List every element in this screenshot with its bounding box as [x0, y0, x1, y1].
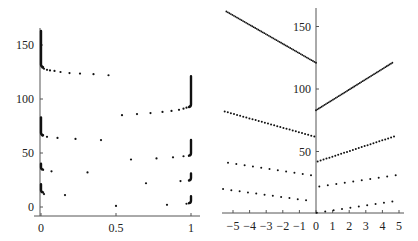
data-point	[361, 146, 363, 148]
data-point	[227, 111, 229, 113]
data-point	[252, 118, 254, 120]
data-point	[185, 203, 187, 205]
data-point	[239, 190, 241, 192]
data-point	[341, 208, 343, 210]
x-tick-label: 5	[396, 219, 402, 233]
vertical-branch	[189, 76, 191, 107]
x-tick-label: 2	[346, 219, 352, 233]
data-point	[283, 44, 285, 46]
data-point	[352, 149, 354, 151]
data-point	[367, 144, 369, 146]
x-tick-label: −4	[243, 219, 256, 233]
data-point	[242, 116, 244, 118]
data-point	[295, 51, 297, 53]
data-point	[100, 139, 102, 141]
data-point	[310, 174, 312, 176]
data-point	[79, 73, 81, 75]
y-tick-label: 150	[293, 20, 311, 34]
y-tick-label: 50	[299, 145, 311, 159]
data-point	[291, 48, 293, 50]
data-point	[107, 74, 109, 76]
y-tick-label: 100	[16, 92, 34, 106]
data-point	[370, 143, 372, 145]
data-point	[178, 109, 180, 111]
x-tick-label: 1	[330, 219, 336, 233]
data-point	[297, 51, 299, 53]
data-point	[53, 70, 55, 72]
data-point	[293, 172, 295, 174]
data-point	[145, 182, 147, 184]
vertical-branch	[41, 117, 43, 135]
x-tick-label: −2	[276, 219, 289, 233]
data-point	[232, 14, 234, 16]
series-branch-1	[41, 31, 191, 116]
data-point	[262, 31, 264, 33]
data-point	[378, 140, 380, 142]
data-point	[361, 179, 363, 181]
data-point	[236, 114, 238, 116]
y-tick-label: 150	[16, 38, 34, 52]
data-point	[115, 205, 117, 207]
data-point	[50, 170, 52, 172]
data-point	[248, 24, 250, 26]
data-point	[242, 20, 244, 22]
x-tick-label: 0	[38, 221, 44, 235]
data-point	[86, 171, 88, 173]
data-point	[316, 212, 318, 214]
data-point	[227, 162, 229, 164]
data-point	[270, 36, 272, 38]
series-line-3-left	[227, 162, 312, 177]
vertical-branch	[189, 196, 191, 203]
data-point	[333, 209, 335, 211]
data-point	[254, 27, 256, 29]
data-point	[378, 177, 380, 179]
data-point	[155, 157, 157, 159]
data-point	[325, 158, 327, 160]
figure: 05010015000.51 50100150−5−4−3−2−1012345	[0, 0, 418, 241]
data-point	[277, 40, 279, 42]
data-point	[277, 169, 279, 171]
data-point	[268, 35, 270, 37]
data-point	[256, 28, 258, 30]
data-point	[245, 117, 247, 119]
data-point	[304, 133, 306, 135]
data-point	[384, 138, 386, 140]
data-point	[170, 110, 172, 112]
data-point	[185, 107, 187, 109]
data-point	[294, 50, 296, 52]
series-line-3-right	[318, 174, 396, 187]
data-point	[381, 139, 383, 141]
data-point	[295, 130, 297, 132]
data-point	[188, 105, 190, 107]
data-point	[263, 32, 265, 34]
data-point	[136, 113, 138, 115]
vertical-branch	[41, 31, 43, 67]
data-point	[244, 164, 246, 166]
data-point	[349, 150, 351, 152]
data-point	[274, 38, 276, 40]
data-point	[272, 195, 274, 197]
data-point	[43, 193, 45, 195]
data-point	[172, 156, 174, 158]
data-point	[273, 38, 275, 40]
data-point	[358, 206, 360, 208]
data-point	[313, 136, 315, 138]
data-point	[301, 132, 303, 134]
data-point	[344, 182, 346, 184]
x-tick-label: 3	[363, 219, 369, 233]
series-line-1-right	[315, 62, 393, 111]
data-point	[391, 62, 393, 64]
data-point	[233, 113, 235, 115]
data-point	[324, 211, 326, 213]
data-point	[236, 17, 238, 19]
data-point	[375, 203, 377, 205]
data-point	[74, 138, 76, 140]
data-point	[244, 21, 246, 23]
data-point	[276, 125, 278, 127]
data-point	[255, 119, 257, 121]
data-point	[270, 123, 272, 125]
data-point	[311, 59, 313, 61]
data-point	[269, 168, 271, 170]
data-point	[228, 12, 230, 14]
data-point	[260, 167, 262, 169]
